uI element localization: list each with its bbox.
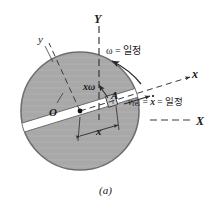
origin-label-O: O xyxy=(49,107,57,118)
radial-distance-label: x xyxy=(96,126,102,137)
axis-label-x: x xyxy=(192,68,198,80)
vrel-equals-1: = xyxy=(140,97,150,107)
angular-velocity-label: ω = 일정 xyxy=(106,46,141,56)
center-point-O xyxy=(78,109,83,114)
axis-label-Y: Y xyxy=(94,13,101,25)
axis-label-y: y xyxy=(38,34,43,45)
figure-drawing xyxy=(0,0,216,208)
transverse-velocity-label: xω xyxy=(83,82,95,92)
relative-velocity-label: vrel = x = 일정 xyxy=(128,98,183,108)
point-label-A: A xyxy=(111,90,118,101)
vrel-subscript: rel xyxy=(132,99,140,108)
axis-label-X: X xyxy=(196,115,204,127)
xdot-symbol: x xyxy=(150,98,155,108)
figure-container: Y y x X ω = 일정 vrel = x = 일정 xω A O x (a… xyxy=(0,0,216,208)
figure-caption: (a) xyxy=(99,185,112,196)
vrel-equals-2: = 일정 xyxy=(155,97,183,107)
y-label-leader-line xyxy=(45,46,53,62)
